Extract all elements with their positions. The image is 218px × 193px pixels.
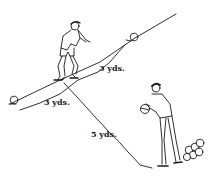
- side-distance-label: 5 yds.: [91, 130, 117, 138]
- player-with-ball-figure: [141, 84, 183, 166]
- distance-line-5yds: [64, 83, 152, 168]
- drill-diagram: [0, 0, 218, 193]
- ball-pile-icon: [183, 139, 203, 160]
- diagonal-line: [10, 14, 176, 104]
- lower-distance-label: 3 yds.: [44, 98, 70, 106]
- player-on-line-figure: [54, 22, 90, 80]
- diagonal-band-edge: [20, 44, 126, 110]
- upper-distance-label: 3 yds.: [99, 64, 125, 72]
